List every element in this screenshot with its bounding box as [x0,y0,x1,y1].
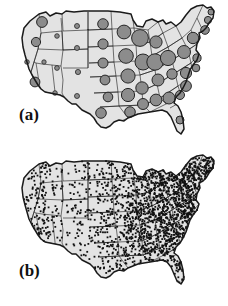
density-dot [135,223,137,225]
density-dot [111,201,113,203]
density-dot [179,211,181,213]
density-dot [132,228,134,230]
density-dot [157,239,159,241]
symbol-circle [121,69,135,83]
density-dot [185,220,187,222]
density-dot [162,199,164,201]
density-dot [174,214,176,216]
density-dot [208,160,210,162]
density-dot [141,221,143,223]
density-dot [204,173,206,175]
symbol-circle [117,25,131,39]
density-dot [126,232,128,234]
density-dot [160,223,162,225]
density-dot [173,234,175,236]
density-dot [174,211,176,213]
density-dot [166,191,168,193]
density-dot [167,208,169,210]
density-dot [200,175,202,177]
density-dot [175,199,177,201]
density-dot [160,190,162,192]
density-dot [102,187,104,189]
density-dot [174,192,176,194]
density-dot [54,194,56,196]
density-dot [178,198,180,200]
density-dot [210,167,212,169]
density-dot [169,238,171,240]
density-dot [131,177,133,179]
density-dot [153,187,155,189]
density-dot [28,210,30,212]
symbol-circle [98,39,108,49]
density-dot [192,169,194,171]
density-dot [113,185,115,187]
density-dot [183,199,185,201]
density-dot [182,232,184,234]
density-dot [115,227,117,229]
density-dot [35,189,37,191]
density-dot [141,195,143,197]
density-dot [159,201,161,203]
density-dot [116,169,118,171]
density-dot [178,224,180,226]
density-dot [148,211,150,213]
density-dot [175,236,177,238]
density-dot [75,207,77,209]
density-dot [123,250,125,252]
density-dot [125,249,127,251]
density-dot [36,223,38,225]
density-dot [155,227,157,229]
density-dot [190,185,192,187]
density-dot [116,201,118,203]
density-dot [199,163,201,165]
density-dot [135,218,137,220]
density-dot [135,209,137,211]
density-dot [85,188,87,190]
density-dot [182,189,184,191]
density-dot [132,207,134,209]
density-dot [150,202,152,204]
density-dot [104,199,106,201]
density-dot [144,211,146,213]
density-dot [101,168,103,170]
density-dot [143,213,145,215]
density-dot [132,178,134,180]
density-dot [30,208,32,210]
density-dot [70,192,72,194]
symbol-circle [178,46,191,59]
density-dot [115,203,117,205]
density-dot [42,227,44,229]
density-dot [188,212,190,214]
density-dot [55,205,57,207]
density-dot [39,176,41,178]
density-dot [84,215,86,217]
density-dot [116,214,118,216]
density-dot [112,175,114,177]
density-dot [138,253,140,255]
density-dot [44,214,46,216]
density-dot [134,253,136,255]
density-dot [165,217,167,219]
density-dot [79,183,81,185]
density-dot [146,200,148,202]
density-dot [103,201,105,203]
density-dot [159,177,161,179]
density-dot [122,168,124,170]
density-dot [137,218,139,220]
density-dot [128,192,130,194]
density-dot [107,242,109,244]
density-dot [182,195,184,197]
density-dot [94,219,96,221]
density-dot [105,272,107,274]
density-dot [80,224,82,226]
density-dot [196,172,198,174]
density-dot [141,229,143,231]
density-dot [155,215,157,217]
density-dot [80,254,82,256]
density-dot [45,232,47,234]
density-dot [138,243,140,245]
density-dot [147,240,149,242]
density-dot [150,246,152,248]
density-dot [126,202,128,204]
density-dot [136,191,138,193]
